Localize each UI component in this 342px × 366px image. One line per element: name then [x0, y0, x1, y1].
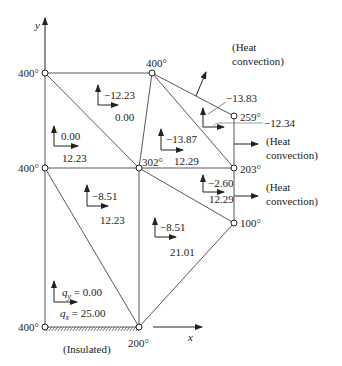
element-qx: 12.23 [100, 215, 125, 226]
x-axis-label: x [188, 332, 193, 343]
element-qx: 12.23 [62, 153, 87, 164]
convection-label-low: convection) [266, 196, 318, 207]
element-qy: 0.00 [61, 131, 80, 142]
element-qy: −8.51 [92, 191, 117, 202]
convection-label-top: (Heat [232, 42, 256, 53]
node-temp: 203° [240, 164, 261, 175]
node-temp: 200° [128, 338, 149, 349]
insulated-boundary [45, 327, 139, 331]
node-temp: 400° [18, 163, 39, 174]
node-temp: 400° [146, 58, 167, 69]
element-qy: −13.87 [166, 134, 197, 145]
element-qx: 21.01 [170, 247, 195, 258]
convection-arrow-top [196, 72, 206, 96]
node-temp: 100° [240, 218, 261, 229]
element-qy: −8.51 [160, 222, 185, 233]
element-qy: −12.23 [104, 90, 135, 101]
convection-label-mid: (Heat [266, 136, 290, 147]
element-qx: −12.34 [264, 118, 295, 129]
fem-heat-flux-diagram: y x 400° 400° 400° 302° 259° 203° 100° 4… [0, 0, 342, 366]
element-qy: qy = 0.00 [62, 287, 102, 301]
element-qy: −13.83 [226, 93, 257, 104]
convection-label-mid: convection) [266, 150, 318, 161]
y-axis-label: y [35, 20, 40, 31]
convection-label-top: convection) [232, 56, 284, 67]
element-qy: −2.60 [208, 178, 233, 189]
mesh-drawing [0, 0, 342, 366]
node-temp: 302° [142, 157, 163, 168]
element-qx: 12.29 [174, 156, 199, 167]
element-qx: qx = 25.00 [60, 308, 106, 322]
convection-label-low: (Heat [266, 182, 290, 193]
node-temp: 259° [240, 112, 261, 123]
node-temp: 400° [18, 68, 39, 79]
element-qx: 0.00 [115, 112, 134, 123]
element-qx: 12.29 [209, 194, 234, 205]
insulated-label: (Insulated) [63, 344, 111, 355]
node-temp: 400° [18, 322, 39, 333]
